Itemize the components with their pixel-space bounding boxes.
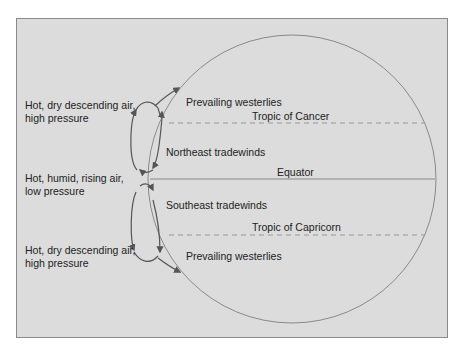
- tropic-capricorn-label: Tropic of Capricorn: [252, 221, 341, 234]
- south-westerlies-label: Prevailing westerlies: [186, 250, 282, 263]
- north-hadley-cell-arrows: [131, 88, 179, 172]
- label-line: low pressure: [25, 185, 124, 198]
- label-line: Hot, humid, rising air,: [25, 172, 124, 185]
- south-high-pressure-label: Hot, dry descending air, high pressure: [25, 244, 135, 270]
- tropic-cancer-label: Tropic of Cancer: [252, 110, 329, 123]
- southeast-tradewinds-label: Southeast tradewinds: [166, 199, 267, 212]
- label-line: Hot, dry descending air,: [25, 99, 135, 112]
- label-line: high pressure: [25, 112, 135, 125]
- north-high-pressure-label: Hot, dry descending air, high pressure: [25, 99, 135, 125]
- equatorial-low-pressure-label: Hot, humid, rising air, low pressure: [25, 172, 124, 198]
- northeast-tradewinds-label: Northeast tradewinds: [166, 146, 265, 159]
- label-line: high pressure: [25, 257, 135, 270]
- equator-label: Equator: [277, 166, 314, 179]
- north-westerlies-label: Prevailing westerlies: [186, 96, 282, 109]
- label-line: Hot, dry descending air,: [25, 244, 135, 257]
